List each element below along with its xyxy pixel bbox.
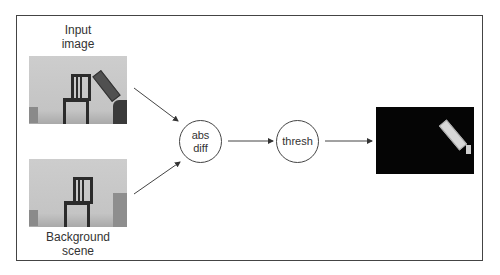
arrow-input-to-absdiff [134, 88, 178, 121]
arrow-background-to-absdiff [134, 162, 180, 194]
arrows-layer [0, 0, 500, 275]
